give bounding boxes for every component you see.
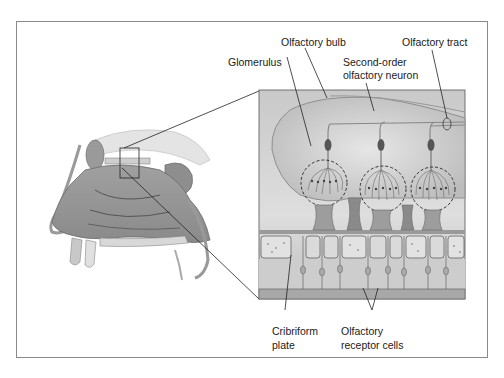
label-receptor-line2: receptor cells <box>341 339 403 351</box>
nasal-cavity-illustration <box>51 130 210 280</box>
label-second-order-line1: Second-order <box>343 56 407 68</box>
label-olfactory-tract: Olfactory tract <box>402 36 467 48</box>
label-second-order-line2: olfactory neuron <box>343 69 418 81</box>
label-receptor-line1: Olfactory <box>341 325 383 337</box>
label-glomerulus: Glomerulus <box>228 56 282 68</box>
label-cribriform-line1: Cribriform <box>272 325 318 337</box>
label-cribriform-line2: plate <box>272 339 295 351</box>
label-olfactory-bulb: Olfactory bulb <box>281 36 346 48</box>
